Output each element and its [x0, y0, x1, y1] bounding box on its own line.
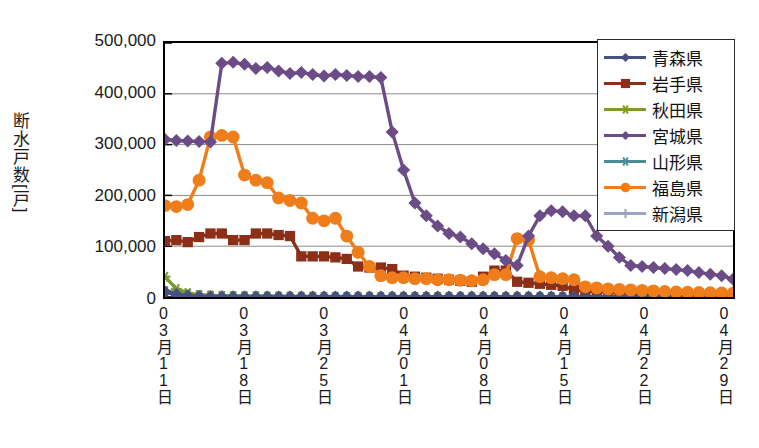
data-point-marker	[283, 291, 296, 297]
data-point-marker	[408, 291, 421, 297]
data-point-marker	[620, 78, 629, 87]
data-point-marker	[620, 130, 629, 139]
data-point-marker	[533, 291, 546, 297]
legend: 青森県岩手県秋田県宮城県山形県福島県新潟県	[597, 39, 735, 231]
data-point-marker	[636, 260, 649, 273]
data-point-marker	[329, 291, 342, 297]
legend-item-3[interactable]: 宮城県	[602, 122, 730, 148]
data-point-marker	[556, 291, 569, 297]
data-point-marker	[533, 209, 546, 222]
legend-item-5[interactable]: 福島県	[602, 174, 730, 200]
data-point-marker	[374, 269, 387, 282]
data-point-marker	[408, 272, 421, 285]
x-axis-tick-label: 04月08日	[471, 305, 495, 405]
data-point-marker	[442, 291, 455, 297]
diamond-icon	[620, 52, 631, 63]
data-point-marker	[590, 281, 603, 294]
data-point-marker	[704, 268, 717, 281]
data-point-marker	[681, 286, 694, 297]
legend-marker-star-icon	[602, 100, 648, 118]
data-point-marker	[340, 230, 353, 243]
y-axis-tick-label: 200,000	[56, 186, 156, 206]
data-point-marker	[692, 266, 705, 279]
data-point-marker	[194, 232, 204, 242]
data-point-marker	[613, 283, 626, 296]
data-point-marker	[579, 280, 592, 293]
legend-item-0[interactable]: 青森県	[602, 44, 730, 70]
legend-label: 新潟県	[648, 201, 703, 226]
data-point-marker	[165, 236, 170, 246]
data-point-marker	[283, 67, 296, 80]
data-point-marker	[465, 291, 478, 297]
data-point-marker	[171, 235, 181, 245]
y-axis-tick-label: 400,000	[56, 83, 156, 103]
data-point-marker	[386, 125, 399, 138]
data-point-marker	[352, 246, 365, 259]
data-point-marker	[511, 259, 524, 272]
x-icon	[620, 156, 631, 167]
data-point-marker	[215, 57, 228, 70]
data-point-marker	[670, 286, 683, 297]
legend-marker-x-icon	[602, 152, 648, 170]
data-point-marker	[620, 157, 629, 165]
data-point-marker	[512, 277, 522, 287]
data-point-marker	[215, 129, 228, 142]
data-point-marker	[273, 230, 283, 240]
data-point-marker	[251, 228, 261, 238]
data-point-marker	[556, 272, 569, 285]
data-point-marker	[170, 200, 183, 213]
data-point-marker	[431, 291, 444, 297]
legend-item-1[interactable]: 岩手県	[602, 70, 730, 96]
data-point-marker	[443, 273, 456, 286]
data-point-marker	[397, 271, 410, 284]
circle-icon	[620, 182, 631, 193]
data-point-marker	[319, 251, 329, 261]
x-axis-tick-label: 04月22日	[631, 305, 655, 405]
data-point-marker	[386, 291, 399, 297]
data-point-marker	[477, 242, 490, 255]
data-point-marker	[317, 70, 330, 83]
data-point-marker	[658, 285, 671, 297]
data-point-marker	[295, 66, 308, 79]
legend-marker-circle-icon	[602, 178, 648, 196]
data-point-marker	[330, 252, 340, 262]
series-line	[165, 234, 733, 296]
data-point-marker	[374, 291, 387, 297]
data-point-marker	[296, 251, 306, 261]
legend-item-6[interactable]: 新潟県	[602, 200, 730, 226]
data-point-marker	[363, 70, 376, 83]
legend-marker-diamond-icon	[602, 48, 648, 66]
plus-icon	[620, 208, 631, 219]
data-point-marker	[217, 228, 227, 238]
data-point-marker	[523, 278, 533, 288]
x-axis-tick-label: 03月25日	[311, 305, 335, 405]
data-point-marker	[238, 58, 251, 71]
data-point-marker	[620, 52, 629, 61]
data-point-marker	[715, 287, 728, 297]
data-point-marker	[511, 291, 524, 297]
data-point-marker	[363, 291, 376, 297]
data-point-marker	[261, 61, 274, 74]
legend-label: 秋田県	[648, 97, 703, 122]
legend-label: 岩手県	[648, 71, 703, 96]
legend-item-2[interactable]: 秋田県	[602, 96, 730, 122]
data-point-marker	[272, 290, 285, 297]
data-point-marker	[681, 264, 694, 277]
data-point-marker	[636, 284, 649, 297]
data-point-marker	[727, 287, 733, 297]
legend-item-4[interactable]: 山形県	[602, 148, 730, 174]
legend-marker-diamond-icon	[602, 126, 648, 144]
data-point-marker	[386, 271, 399, 284]
data-point-marker	[295, 291, 308, 297]
data-point-marker	[295, 197, 308, 210]
x-axis-tick-label: 04月15日	[551, 305, 575, 405]
data-point-marker	[567, 273, 580, 286]
data-point-marker	[227, 290, 240, 297]
y-axis-tick-label: 100,000	[56, 237, 156, 257]
legend-marker-square-icon	[602, 74, 648, 92]
legend-label: 青森県	[648, 45, 703, 70]
data-point-marker	[499, 291, 512, 297]
data-point-marker	[181, 198, 194, 211]
data-point-marker	[261, 176, 274, 189]
legend-label: 宮城県	[648, 123, 703, 148]
